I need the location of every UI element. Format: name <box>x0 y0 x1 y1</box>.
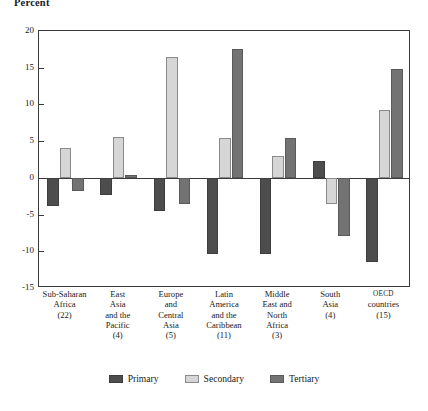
bar-tertiary <box>391 69 403 178</box>
y-axis-tick-label: 0 <box>8 172 34 181</box>
legend-label: Tertiary <box>289 374 319 384</box>
bar-secondary <box>379 110 391 178</box>
legend-swatch-primary <box>109 375 123 383</box>
category-label-line: OECD <box>353 289 414 299</box>
y-axis-tick-labels: 20151050-5-10-15 <box>0 30 34 287</box>
x-axis-category-label: OECDcountries(15) <box>353 289 414 320</box>
category-label-line: East and <box>247 299 308 309</box>
category-label-line: Sub-Saharan <box>34 289 95 299</box>
x-axis-category-label: EuropeandCentralAsia(5) <box>140 289 201 340</box>
x-axis-category-label: SouthAsia(4) <box>300 289 361 320</box>
category-label-line: countries <box>353 299 414 309</box>
category-label-line: (22) <box>34 310 95 320</box>
y-axis-tick-label: 10 <box>8 99 34 108</box>
x-axis-category-labels: Sub-SaharanAfrica(22)EastAsiaand thePaci… <box>38 289 410 351</box>
category-label-line: Caribbean <box>193 320 254 330</box>
y-axis-tick-label: 5 <box>8 136 34 145</box>
category-label-line: (4) <box>87 330 148 340</box>
category-label-line: East <box>87 289 148 299</box>
category-label-line: (15) <box>353 310 414 320</box>
bar-chart: Percent 20151050-5-10-15 Sub-SaharanAfri… <box>0 0 428 411</box>
y-axis-title: Percent <box>14 0 50 8</box>
x-axis-category-label: EastAsiaand thePacific(4) <box>87 289 148 340</box>
chart-legend: PrimarySecondaryTertiary <box>0 374 428 384</box>
category-label-line: and the <box>193 310 254 320</box>
category-label-line: Africa <box>247 320 308 330</box>
category-label-line: Middle <box>247 289 308 299</box>
category-label-line: Central <box>140 310 201 320</box>
legend-swatch-tertiary <box>270 375 284 383</box>
x-axis-category-label: LatinAmericaand theCaribbean(11) <box>193 289 254 340</box>
legend-item-secondary[interactable]: Secondary <box>185 374 245 384</box>
legend-label: Secondary <box>204 374 245 384</box>
category-label-line: Asia <box>140 320 201 330</box>
legend-swatch-secondary <box>185 375 199 383</box>
y-axis-tick-label: 20 <box>8 26 34 35</box>
x-axis-category-label: Sub-SaharanAfrica(22) <box>34 289 95 320</box>
category-label-line: North <box>247 310 308 320</box>
bar-group <box>39 31 411 286</box>
y-axis-tick-label: 15 <box>8 62 34 71</box>
plot-area <box>38 30 410 287</box>
x-axis-category-label: MiddleEast andNorthAfrica(3) <box>247 289 308 340</box>
category-label-line: Latin <box>193 289 254 299</box>
category-label-line: Pacific <box>87 320 148 330</box>
y-axis-tick-label: -10 <box>8 246 34 255</box>
category-label-line: Asia <box>300 299 361 309</box>
category-label-line: and <box>140 299 201 309</box>
category-label-line: Europe <box>140 289 201 299</box>
category-label-line: (4) <box>300 310 361 320</box>
legend-label: Primary <box>128 374 159 384</box>
y-axis-tick-label: -15 <box>8 283 34 292</box>
bar-primary <box>366 178 378 262</box>
category-label-line: and the <box>87 310 148 320</box>
y-axis-tick-label: -5 <box>8 209 34 218</box>
category-label-line: (11) <box>193 330 254 340</box>
category-label-line: (5) <box>140 330 201 340</box>
category-label-line: Africa <box>34 299 95 309</box>
category-label-line: America <box>193 299 254 309</box>
legend-item-tertiary[interactable]: Tertiary <box>270 374 319 384</box>
plot-inner <box>39 31 409 286</box>
category-label-line: Asia <box>87 299 148 309</box>
category-label-line: (3) <box>247 330 308 340</box>
category-label-line: South <box>300 289 361 299</box>
legend-item-primary[interactable]: Primary <box>109 374 159 384</box>
